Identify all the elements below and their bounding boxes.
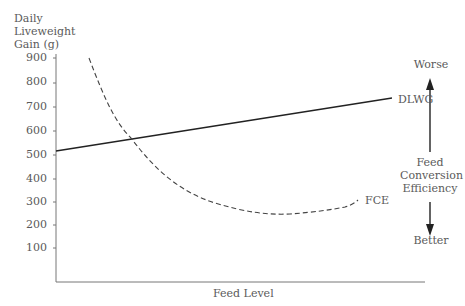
fce-axis-label-line-2: Conversion [400,169,460,182]
chart-plot [0,0,465,306]
fce-label: FCE [365,194,389,207]
fce-axis-label-line-3: Efficiency [400,182,460,195]
dlwg-label: DLWG [398,93,433,106]
dlwg-line [56,98,392,151]
better-label: Better [412,234,450,247]
up-arrow-icon [426,78,434,90]
fce-axis-label-line-1: Feed [405,156,455,169]
worse-label: Worse [413,58,449,71]
fce-curve [89,58,358,214]
x-axis-label: Feed Level [213,287,274,300]
